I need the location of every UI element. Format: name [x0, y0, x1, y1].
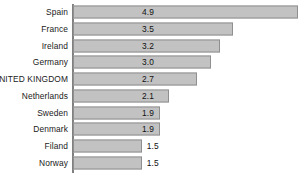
category-label: Filand [45, 142, 68, 150]
bar-row: Netherlands 2.1 [0, 88, 306, 105]
category-label: Ireland [42, 42, 68, 50]
bar-value-label: 3.0 [142, 58, 154, 66]
bar [73, 89, 169, 102]
bar-value-label: 2.7 [142, 75, 154, 83]
bar-chart: Spain 4.9 France 3.5 Ireland 3.2 Germany… [0, 0, 306, 188]
bar-row: France 3.5 [0, 21, 306, 38]
bar [73, 6, 298, 19]
bar-value-label: 1.5 [147, 158, 159, 166]
category-label: Germany [33, 58, 68, 66]
bar-value-label: 4.9 [142, 8, 154, 16]
bar-row: Spain 4.9 [0, 4, 306, 21]
plot-area: Spain 4.9 France 3.5 Ireland 3.2 Germany… [0, 0, 306, 188]
bar-value-label: 1.5 [147, 142, 159, 150]
bar-row: UNITED KINGDOM 2.7 [0, 71, 306, 88]
category-label: Norway [39, 158, 68, 166]
bar [73, 139, 142, 152]
bar-value-label: 3.5 [142, 25, 154, 33]
bar-value-label: 1.9 [142, 108, 154, 116]
bar-value-label: 2.1 [142, 92, 154, 100]
category-label: France [41, 25, 68, 33]
category-label: Sweden [37, 108, 68, 116]
bar-value-label: 3.2 [142, 42, 154, 50]
bar-row: Ireland 3.2 [0, 37, 306, 54]
bar-row: Denmark 1.9 [0, 121, 306, 138]
category-label: Denmark [33, 125, 68, 133]
bar-row: Sweden 1.9 [0, 104, 306, 121]
bar-row: Norway 1.5 [0, 154, 306, 171]
category-label: UNITED KINGDOM [0, 75, 68, 83]
bar-value-label: 1.9 [142, 125, 154, 133]
bar [73, 156, 142, 169]
category-label: Spain [46, 8, 68, 16]
bar [73, 73, 197, 86]
category-label: Netherlands [22, 92, 68, 100]
bar-row: Germany 3.0 [0, 54, 306, 71]
bar-row: Filand 1.5 [0, 138, 306, 155]
